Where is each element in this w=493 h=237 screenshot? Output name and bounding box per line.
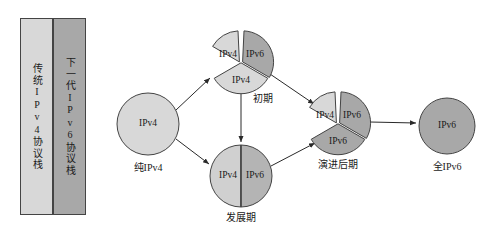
node-late-evolution-caption: 演进后期: [318, 158, 358, 170]
node-growth-stage-label-ipv4: IPv4: [219, 170, 237, 180]
node-growth-stage[interactable]: IPv4 IPv6 发展期: [210, 145, 272, 223]
node-pure-ipv4-caption: 纯IPv4: [134, 161, 163, 173]
node-early-stage-label-ipv4-bottom: IPv4: [232, 75, 250, 85]
edge-late-to-full: [370, 122, 416, 123]
edge-pure-to-growth: [176, 139, 209, 164]
edge-growth-to-late: [271, 143, 315, 166]
node-growth-stage-label-ipv6: IPv6: [246, 170, 264, 180]
node-late-evolution-label-ipv4-top-left: IPv4: [316, 110, 334, 120]
node-late-evolution[interactable]: IPv4 IPv6 IPv6 演进后期: [310, 92, 371, 170]
node-full-ipv6-caption: 全IPv6: [433, 160, 462, 172]
diagram-canvas: 传统IPv4协议栈 下一代IPv6协议栈 IPv4 纯IPv4: [0, 0, 493, 237]
node-pure-ipv4[interactable]: IPv4 纯IPv4: [117, 93, 179, 173]
node-late-evolution-label-ipv6-top-right: IPv6: [343, 110, 361, 120]
edge-early-to-late: [270, 74, 314, 104]
node-late-evolution-label-ipv6-bottom: IPv6: [329, 136, 347, 146]
node-early-stage[interactable]: IPv4 IPv6 IPv4 初期: [213, 31, 274, 104]
node-early-stage-label-ipv4-top-left: IPv4: [219, 49, 237, 59]
node-pure-ipv4-segment-label: IPv4: [139, 118, 157, 128]
edge-pure-to-early: [176, 78, 210, 110]
edge-group: [176, 74, 416, 166]
node-growth-stage-caption: 发展期: [226, 211, 256, 223]
node-full-ipv6-segment-label: IPv6: [438, 120, 456, 130]
node-full-ipv6[interactable]: IPv6 全IPv6: [419, 98, 475, 172]
flow-diagram: IPv4 纯IPv4 IPv4 IPv6 IPv4 初期 IPv4 IPv6 发…: [0, 0, 493, 237]
node-early-stage-label-ipv6-top-right: IPv6: [246, 49, 264, 59]
node-early-stage-caption: 初期: [253, 92, 273, 104]
